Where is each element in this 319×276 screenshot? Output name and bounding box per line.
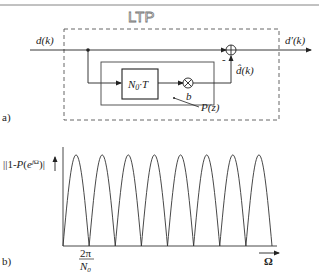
magnitude-chart: ||1-P(ejΩ)| 2π N0 Ω b): [2, 147, 279, 274]
input-label: d(k): [36, 34, 54, 47]
svg-text:2π: 2π: [80, 247, 92, 259]
response-lobe: [89, 155, 115, 246]
handwritten-note: LTP: [128, 8, 154, 25]
x-tick-label: 2π N0: [79, 247, 94, 274]
response-lobe: [194, 155, 220, 246]
response-lobe: [63, 155, 89, 246]
gain-label: b: [186, 90, 192, 102]
prediction-label: d̂(k): [236, 64, 254, 77]
block-diagram: d(k) N0·T b d̂(k) - d′(k): [2, 29, 311, 124]
response-lobe: [115, 155, 141, 246]
output-label: d′(k): [285, 34, 305, 47]
branch-line: [88, 50, 121, 83]
response-lobe: [220, 155, 246, 246]
response-lobe: [246, 155, 272, 246]
figure-canvas: LTP d(k) N0·T b d̂(k): [0, 0, 319, 276]
x-axis-label: Ω: [264, 255, 273, 267]
response-lobe: [141, 155, 167, 246]
sum-icon: [226, 45, 236, 55]
y-axis-label: ||1-P(ejΩ)|: [3, 158, 45, 171]
panel-a-label: a): [2, 111, 11, 124]
panel-b-label: b): [2, 255, 12, 268]
minus-sign: -: [222, 53, 226, 65]
svg-text:N0: N0: [79, 260, 91, 274]
filter-label: P(z): [200, 101, 220, 114]
response-lobe: [168, 155, 194, 246]
multiplier-icon: [183, 78, 193, 88]
